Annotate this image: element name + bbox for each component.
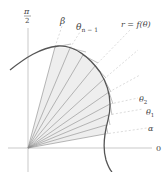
- zero-angle-label: 0: [156, 144, 161, 153]
- theta-1-label: θ1: [146, 108, 154, 118]
- theta-2-label: θ2: [139, 95, 147, 105]
- polar-sector-diagram: π 2 0 β θn − 1 r = f(θ) θ2 θ1 α: [0, 0, 164, 172]
- pi-over-2-numerator: π: [23, 7, 30, 16]
- alpha-label: α: [148, 124, 154, 133]
- theta-n-minus-1-label: θn − 1: [76, 22, 98, 33]
- curve-equation-label: r = f(θ): [121, 20, 151, 29]
- beta-label: β: [59, 16, 65, 26]
- pi-over-2-denominator: 2: [25, 17, 29, 25]
